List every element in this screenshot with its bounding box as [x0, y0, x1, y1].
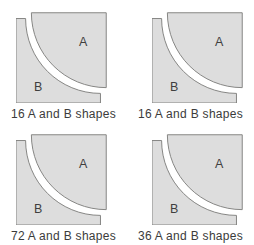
dissected-square-diagram: A B [16, 7, 112, 103]
figure-top-left: A B 16 A and B shapes [0, 0, 127, 122]
shape-a-label: A [215, 35, 224, 49]
dissected-square-diagram: A B [16, 129, 112, 225]
dissected-square-diagram: A B [152, 129, 248, 225]
figure-bottom-left: A B 72 A and B shapes [0, 122, 127, 245]
figure-caption: 16 A and B shapes [127, 107, 254, 121]
shape-b-label: B [33, 202, 41, 216]
shape-b-label: B [33, 80, 41, 94]
figure-caption: 36 A and B shapes [127, 229, 254, 243]
shape-b-label: B [169, 202, 177, 216]
shape-a-label: A [215, 157, 224, 171]
figure-bottom-right: A B 36 A and B shapes [127, 122, 254, 245]
figure-caption: 72 A and B shapes [0, 229, 127, 243]
dissected-square-diagram: A B [152, 7, 248, 103]
figure-caption: 16 A and B shapes [0, 107, 127, 121]
shape-a-label: A [79, 157, 88, 171]
shape-a-label: A [79, 35, 88, 49]
shape-b-label: B [169, 80, 177, 94]
figure-top-right: A B 16 A and B shapes [127, 0, 254, 122]
worksheet: A B 16 A and B shapes A B 16 A and B sha… [0, 0, 254, 245]
